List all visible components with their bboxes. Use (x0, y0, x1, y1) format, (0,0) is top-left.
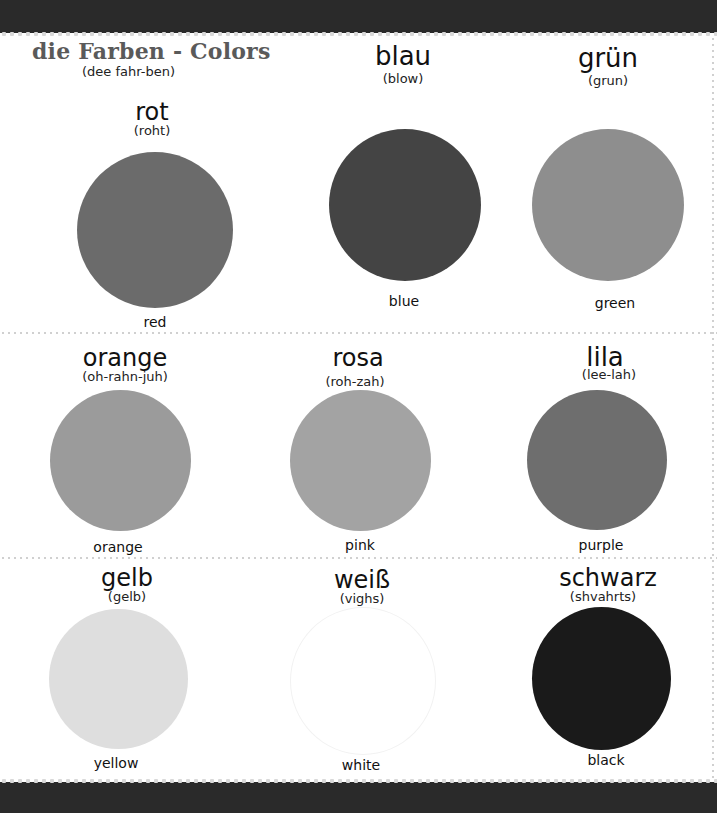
top-scallop-edge (0, 31, 717, 37)
color-english-white: white (342, 757, 380, 773)
row-divider-1 (0, 332, 717, 334)
color-word-gruen: grün (578, 46, 638, 70)
color-english-red: red (144, 314, 167, 330)
color-word-orange: orange (83, 346, 167, 370)
color-pron-blau: (blow) (383, 72, 424, 86)
color-pron-schwarz: (shvahrts) (570, 590, 636, 604)
bottom-scallop-edge (0, 778, 717, 784)
color-pron-weiss: (vighs) (340, 592, 385, 606)
top-border-band (0, 0, 717, 33)
right-edge-divider (712, 36, 714, 778)
color-word-rot: rot (135, 100, 168, 124)
swatch-yellow (49, 609, 188, 749)
color-word-blau: blau (375, 44, 431, 68)
color-pron-gruen: (grun) (588, 74, 628, 88)
color-word-gelb: gelb (101, 566, 153, 590)
color-english-green: green (595, 295, 635, 311)
color-english-black: black (587, 752, 624, 768)
row-divider-2 (0, 557, 717, 559)
color-pron-rosa: (roh-zah) (325, 375, 384, 389)
color-word-rosa: rosa (332, 346, 383, 370)
swatch-white (290, 607, 436, 755)
page-title-pronunciation: (dee fahr-ben) (82, 64, 175, 79)
swatch-purple (527, 390, 667, 530)
color-word-weiss: weiß (334, 568, 390, 592)
swatch-red (77, 152, 233, 308)
color-english-pink: pink (345, 537, 375, 553)
color-word-lila: lila (586, 345, 624, 369)
bottom-border-band (0, 782, 717, 813)
swatch-pink (290, 390, 431, 531)
swatch-orange (50, 390, 191, 531)
color-pron-lila: (lee-lah) (582, 368, 636, 382)
swatch-green (532, 129, 684, 281)
color-pron-orange: (oh-rahn-juh) (82, 370, 168, 384)
color-english-yellow: yellow (94, 755, 139, 771)
color-word-schwarz: schwarz (559, 566, 657, 590)
color-english-blue: blue (389, 293, 419, 309)
color-english-purple: purple (579, 537, 624, 553)
swatch-blue (329, 129, 481, 281)
color-pron-rot: (roht) (134, 124, 171, 138)
color-english-orange: orange (93, 539, 142, 555)
swatch-black (532, 607, 671, 750)
page-title: die Farben - Colors (32, 38, 270, 64)
color-pron-gelb: (gelb) (108, 590, 146, 604)
